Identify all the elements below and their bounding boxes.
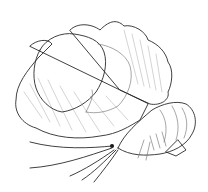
scallop-lower-shell [16, 40, 148, 138]
scallop-prawn-illustration [0, 0, 208, 192]
illustration-canvas [0, 0, 208, 192]
scallop-back-shell [70, 22, 172, 105]
